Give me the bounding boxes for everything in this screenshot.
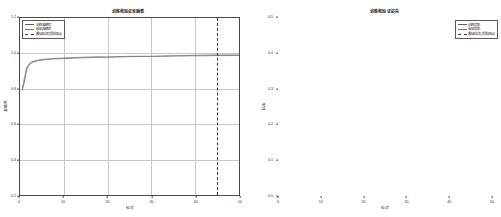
- y-tick: 1.0: [0, 51, 16, 55]
- x-tick: 30: [150, 200, 154, 204]
- y-tick: 0.6: [0, 122, 16, 126]
- x-tick: 20: [362, 200, 366, 204]
- legend-dashed-line-icon: [458, 34, 467, 35]
- x-tick: 40: [447, 200, 451, 204]
- x-tick: 30: [404, 200, 408, 204]
- y-tick: 1.2: [0, 15, 16, 19]
- best-epoch-vline-accuracy: [217, 18, 218, 195]
- plot-area-accuracy: [19, 17, 240, 196]
- x-axis-label-accuracy: 轮次: [19, 206, 240, 210]
- curves-accuracy: [20, 18, 239, 195]
- x-tick: 0: [277, 200, 279, 204]
- legend-dashed-line-icon: [25, 34, 34, 35]
- y-tick: 0.0: [255, 194, 273, 198]
- series-line-validation-accuracy: [22, 55, 239, 89]
- y-tick: 0.5: [255, 15, 273, 19]
- chart-panel-accuracy: 训练和验证准确率 1.2 1.0: [0, 0, 250, 217]
- x-tick: 40: [194, 200, 198, 204]
- y-tick: 0.2: [0, 194, 16, 198]
- x-tick: 0: [18, 200, 20, 204]
- x-tick: 20: [105, 200, 109, 204]
- legend-line-icon: [458, 24, 467, 25]
- y-tick: 0.8: [0, 87, 16, 91]
- legend-line-icon: [25, 24, 34, 25]
- legend-line-icon: [458, 29, 467, 30]
- legend-loss[interactable]: 训练损失 验证损失 最佳轮次(提前停止): [455, 20, 498, 39]
- y-axis-label-accuracy: 准确率: [4, 96, 8, 116]
- chart-title-accuracy: 训练和验证准确率: [18, 9, 238, 14]
- legend-item[interactable]: 最佳轮次(提前停止): [458, 32, 495, 37]
- legend-line-icon: [25, 29, 34, 30]
- legend-label: 最佳轮次(提前停止): [36, 32, 62, 36]
- y-tick: 0.1: [255, 158, 273, 162]
- legend-accuracy[interactable]: 训练准确率 验证准确率 最佳轮次(提前停止): [22, 20, 65, 39]
- y-tick: 0.2: [255, 122, 273, 126]
- y-tick: 0.4: [0, 158, 16, 162]
- legend-label: 最佳轮次(提前停止): [468, 32, 494, 36]
- x-tick: 50: [238, 200, 242, 204]
- x-axis-label-loss: 轮次: [278, 206, 492, 210]
- legend-item[interactable]: 最佳轮次(提前停止): [25, 32, 62, 37]
- x-tick: 10: [61, 200, 65, 204]
- x-tick: 10: [319, 200, 323, 204]
- figure-canvas: 训练和验证准确率 1.2 1.0: [0, 0, 501, 217]
- chart-panel-loss: 训练和验证损失 0.5 0.4: [250, 0, 501, 217]
- legend-label: 验证损失: [468, 27, 480, 31]
- y-axis-label-loss: 损失: [262, 96, 266, 116]
- y-tick: 0.3: [255, 87, 273, 91]
- legend-label: 验证准确率: [36, 27, 51, 31]
- chart-title-loss: 训练和验证损失: [278, 9, 491, 14]
- x-tick: 50: [490, 200, 494, 204]
- y-tick: 0.4: [255, 51, 273, 55]
- series-line-train-accuracy: [22, 56, 239, 91]
